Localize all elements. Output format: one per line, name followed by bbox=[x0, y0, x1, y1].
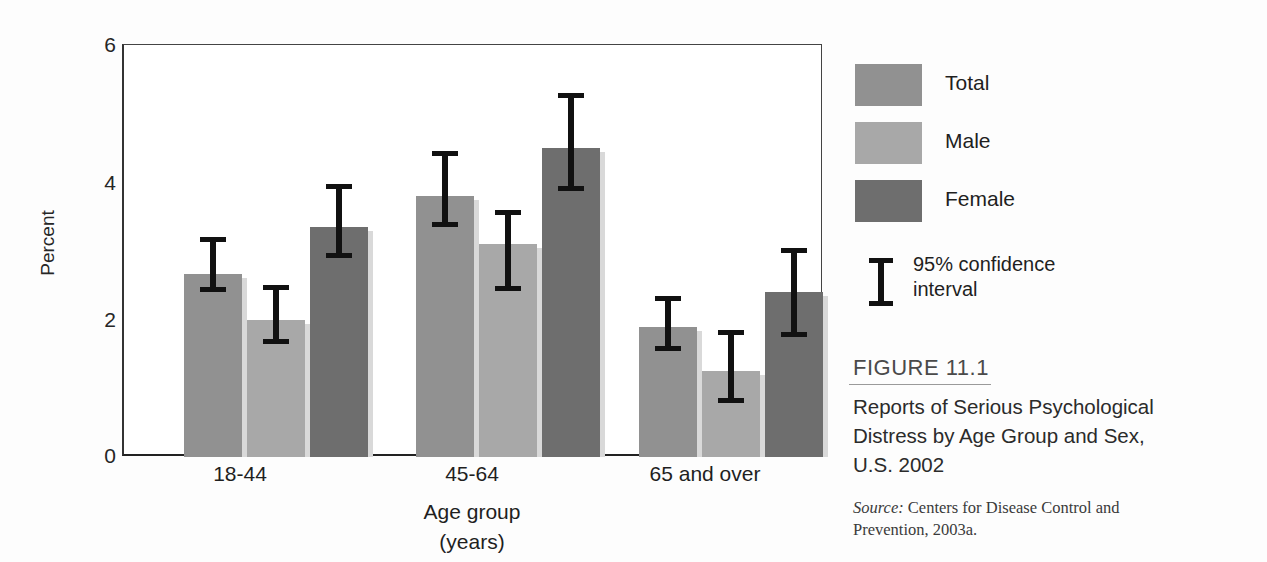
x-group-label-1: 18-44 bbox=[150, 462, 330, 486]
x-axis-title-line2: (years) bbox=[382, 527, 562, 557]
error-bar-female-18-44 bbox=[326, 184, 352, 257]
error-bar-cap-bottom bbox=[718, 398, 744, 403]
legend-label-male: Male bbox=[945, 129, 991, 153]
bar-shadow bbox=[600, 152, 605, 457]
error-bar-cap-bottom bbox=[495, 286, 521, 291]
error-bar-total-18-44 bbox=[200, 237, 226, 292]
bar-body bbox=[416, 196, 474, 457]
y-tick-label-2: 2 bbox=[90, 309, 116, 330]
error-bar-stem bbox=[665, 300, 671, 347]
legend-ci-line1: 95% confidence bbox=[913, 252, 1193, 277]
caption-source: Source: Centers for Disease Control and … bbox=[853, 497, 1153, 541]
y-axis-title: Percent bbox=[37, 173, 59, 313]
x-axis-title: Age group (years) bbox=[382, 497, 562, 557]
error-bar-male-45-64 bbox=[495, 210, 521, 291]
figure-caption: FIGURE 11.1 Reports of Serious Psycholog… bbox=[853, 355, 1183, 541]
x-axis-title-line1: Age group bbox=[382, 497, 562, 527]
error-bar-cap-bottom bbox=[781, 332, 807, 337]
figure-number: FIGURE 11.1 bbox=[849, 355, 991, 385]
error-bar-male-18-44 bbox=[263, 285, 289, 343]
legend-swatch-female bbox=[855, 180, 922, 222]
x-group-label-2: 45-64 bbox=[382, 462, 562, 486]
bar-total-45-64 bbox=[416, 196, 474, 457]
legend-item-total: Total bbox=[855, 62, 1255, 104]
error-bar-cap-bottom bbox=[432, 222, 458, 227]
error-bar-stem bbox=[273, 289, 279, 339]
legend-label-confidence-interval: 95% confidence interval bbox=[913, 252, 1193, 302]
y-tick-label-0: 0 bbox=[90, 445, 116, 466]
legend-swatch-male bbox=[855, 122, 922, 164]
bar-female-45-64 bbox=[542, 148, 600, 457]
bar-body bbox=[184, 274, 242, 457]
y-tick-label-6: 6 bbox=[90, 34, 116, 55]
error-bar-stem bbox=[505, 214, 511, 287]
legend-item-female: Female bbox=[855, 178, 1255, 220]
y-tick-label-4: 4 bbox=[90, 172, 116, 193]
error-bar-total-45-64 bbox=[432, 151, 458, 227]
error-bar-stem bbox=[568, 97, 574, 187]
y-axis-tick-labels: 6 4 2 0 bbox=[84, 0, 116, 562]
plot-area bbox=[122, 44, 822, 456]
x-group-label-3: 65 and over bbox=[605, 462, 805, 486]
error-bar-cap-bottom bbox=[326, 253, 352, 258]
bar-shadow bbox=[823, 296, 828, 457]
bar-shadow bbox=[368, 231, 373, 457]
figure-page: 6 4 2 0 Percent 18-44 45-64 65 and over … bbox=[0, 0, 1267, 562]
error-bar-male-65-and-over bbox=[718, 330, 744, 403]
error-bar-cap-bottom bbox=[558, 186, 584, 191]
error-bar-female-65-and-over bbox=[781, 248, 807, 337]
source-word: Source: bbox=[853, 498, 904, 517]
error-bar-stem bbox=[791, 252, 797, 333]
error-bar-cap-bottom bbox=[655, 346, 681, 351]
bar-chart: 6 4 2 0 Percent 18-44 45-64 65 and over … bbox=[0, 0, 840, 562]
caption-title: Reports of Serious Psychological Distres… bbox=[853, 392, 1173, 479]
legend-item-confidence-interval: 95% confidence interval bbox=[855, 252, 1255, 312]
bar-female-18-44 bbox=[310, 227, 368, 457]
error-bar-stem bbox=[728, 334, 734, 399]
error-bar-total-65-and-over bbox=[655, 296, 681, 351]
error-bar-cap-bottom bbox=[263, 339, 289, 344]
bar-body bbox=[542, 148, 600, 457]
legend-and-caption-panel: Total Male Female 95% confidence interva… bbox=[845, 0, 1267, 562]
legend-ci-line2: interval bbox=[913, 277, 1193, 302]
error-bar-icon bbox=[869, 258, 893, 306]
error-bar-cap-bottom bbox=[200, 287, 226, 292]
error-bar-stem bbox=[336, 188, 342, 253]
legend-label-female: Female bbox=[945, 187, 1015, 211]
error-bar-female-45-64 bbox=[558, 93, 584, 191]
bar-total-18-44 bbox=[184, 274, 242, 457]
error-bar-stem bbox=[442, 155, 448, 223]
legend-swatch-total bbox=[855, 64, 922, 106]
legend-label-total: Total bbox=[945, 71, 989, 95]
bar-body bbox=[310, 227, 368, 457]
legend-item-male: Male bbox=[855, 120, 1255, 162]
error-bar-stem bbox=[210, 241, 216, 288]
